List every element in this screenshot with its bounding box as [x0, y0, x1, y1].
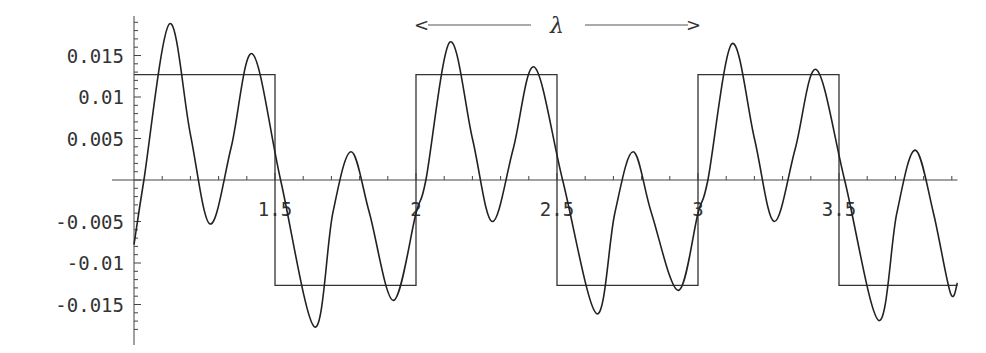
y-tick-label: 0.01: [78, 86, 124, 108]
chart-plot: 0.0150.010.005-0.005-0.01-0.015 1.522.53…: [0, 0, 986, 353]
y-tick-label: -0.005: [55, 211, 124, 233]
axes: [112, 16, 957, 345]
y-tick-label: 0.015: [67, 45, 124, 67]
left-arrow-head: <: [414, 14, 429, 35]
right-arrow-head: >: [686, 14, 701, 35]
y-tick-label: -0.015: [55, 294, 124, 316]
lambda-label: λ: [549, 13, 564, 38]
wavelength-annotation: < λ >: [414, 13, 701, 38]
y-tick-label: 0.005: [67, 128, 124, 150]
y-tick-label: -0.01: [67, 252, 124, 274]
oscillating-curve-series: [134, 24, 957, 328]
